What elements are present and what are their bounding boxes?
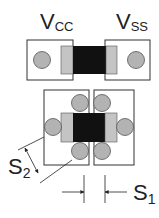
capacitor-body [73,46,106,74]
top-configuration [27,40,150,80]
capacitor-terminal-left [61,113,74,142]
vcc-label: VCC [40,9,73,34]
capacitor-terminal-right [105,113,117,142]
capacitor-body [73,113,106,142]
capacitor-terminal-right [106,46,117,74]
vss-label: VSS [116,9,148,34]
s1-label: S1 [133,180,156,207]
via-top-right [94,95,111,112]
capacitor-layout-diagram: VCC VSS S2 S1 [0,0,159,218]
vcc-via [34,52,51,69]
via-bottom-left [72,143,89,160]
via-top-left [72,95,89,112]
via-right [117,119,134,136]
s2-label: S2 [8,154,31,181]
vss-via [128,52,145,69]
s2-extension-line-upper [18,137,44,150]
via-left [45,119,62,136]
via-bottom-right [94,143,111,160]
bottom-configuration [44,90,134,165]
capacitor-terminal-left [61,46,73,74]
s1-dimension: S1 [62,175,156,207]
